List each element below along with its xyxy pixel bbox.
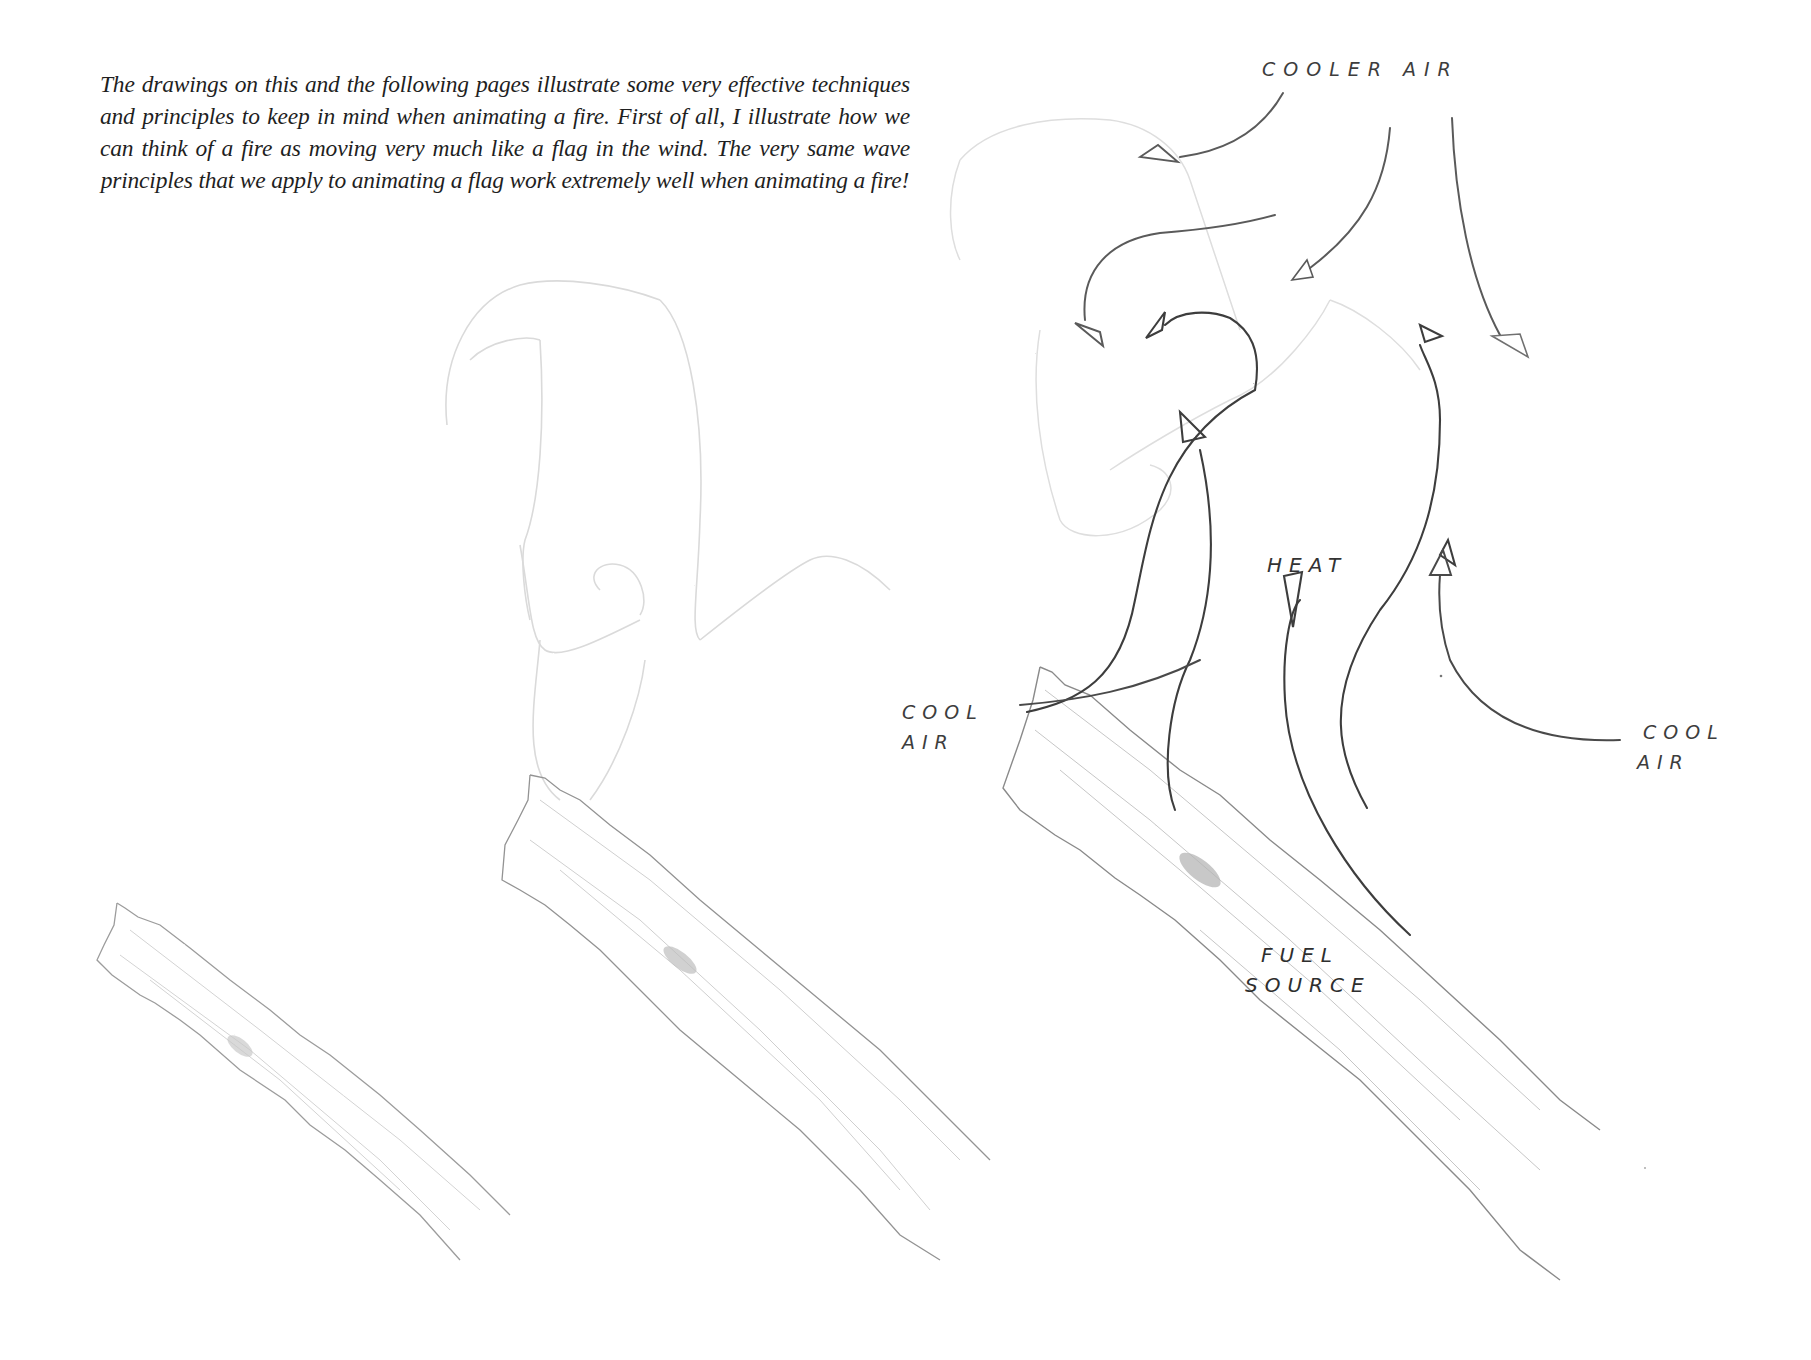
heat-arrows (1027, 312, 1455, 935)
arrow-cool-air-left-line (1020, 660, 1200, 705)
arrow-heat-loop (1027, 312, 1257, 712)
label-fuel-source-line1: FUEL (1245, 940, 1371, 970)
arrow-heat-middle (1341, 325, 1442, 808)
label-cool-air-left-line1: COOL (902, 697, 984, 727)
label-cooler-air: COOLER AIR (1262, 54, 1459, 84)
pencil-fleck (1440, 675, 1443, 678)
arrow-cooler-air-4 (1452, 118, 1528, 357)
label-cool-air-left-line2: AIR (902, 727, 984, 757)
arrow-cool-air-right (1430, 550, 1620, 740)
faint-flame-sketch-right (951, 119, 1420, 536)
arrow-cooler-air-3 (1292, 128, 1390, 280)
cooler-air-arrows (1075, 93, 1528, 357)
label-fuel-source-line2: SOURCE (1245, 970, 1371, 1000)
label-fuel-source: FUEL SOURCE (1245, 940, 1371, 1000)
arrow-cooler-air-2 (1075, 215, 1275, 346)
log-left (97, 903, 510, 1260)
fire-airflow-diagram (0, 0, 1811, 1360)
label-cool-air-right: COOL AIR (1637, 717, 1725, 777)
label-heat: HEAT (1267, 550, 1347, 580)
label-cool-air-right-line1: COOL (1637, 717, 1725, 747)
log-middle (502, 775, 990, 1260)
label-cool-air-right-line2: AIR (1637, 747, 1725, 777)
faint-flame-sketch-middle (446, 281, 890, 800)
arrow-heat-left (1168, 412, 1211, 810)
arrow-heat-center (1284, 572, 1410, 935)
label-cool-air-left: COOL AIR (902, 697, 984, 757)
arrow-cooler-air-1 (1140, 93, 1283, 162)
pencil-fleck (1644, 1167, 1646, 1169)
